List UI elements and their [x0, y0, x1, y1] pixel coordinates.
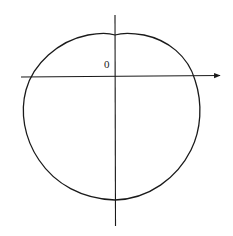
y-axis: [115, 15, 116, 226]
x-axis: [21, 76, 220, 78]
origin-label: 0: [104, 58, 110, 70]
curve-diagram: 0: [0, 0, 233, 236]
closed-curve: [23, 34, 200, 201]
